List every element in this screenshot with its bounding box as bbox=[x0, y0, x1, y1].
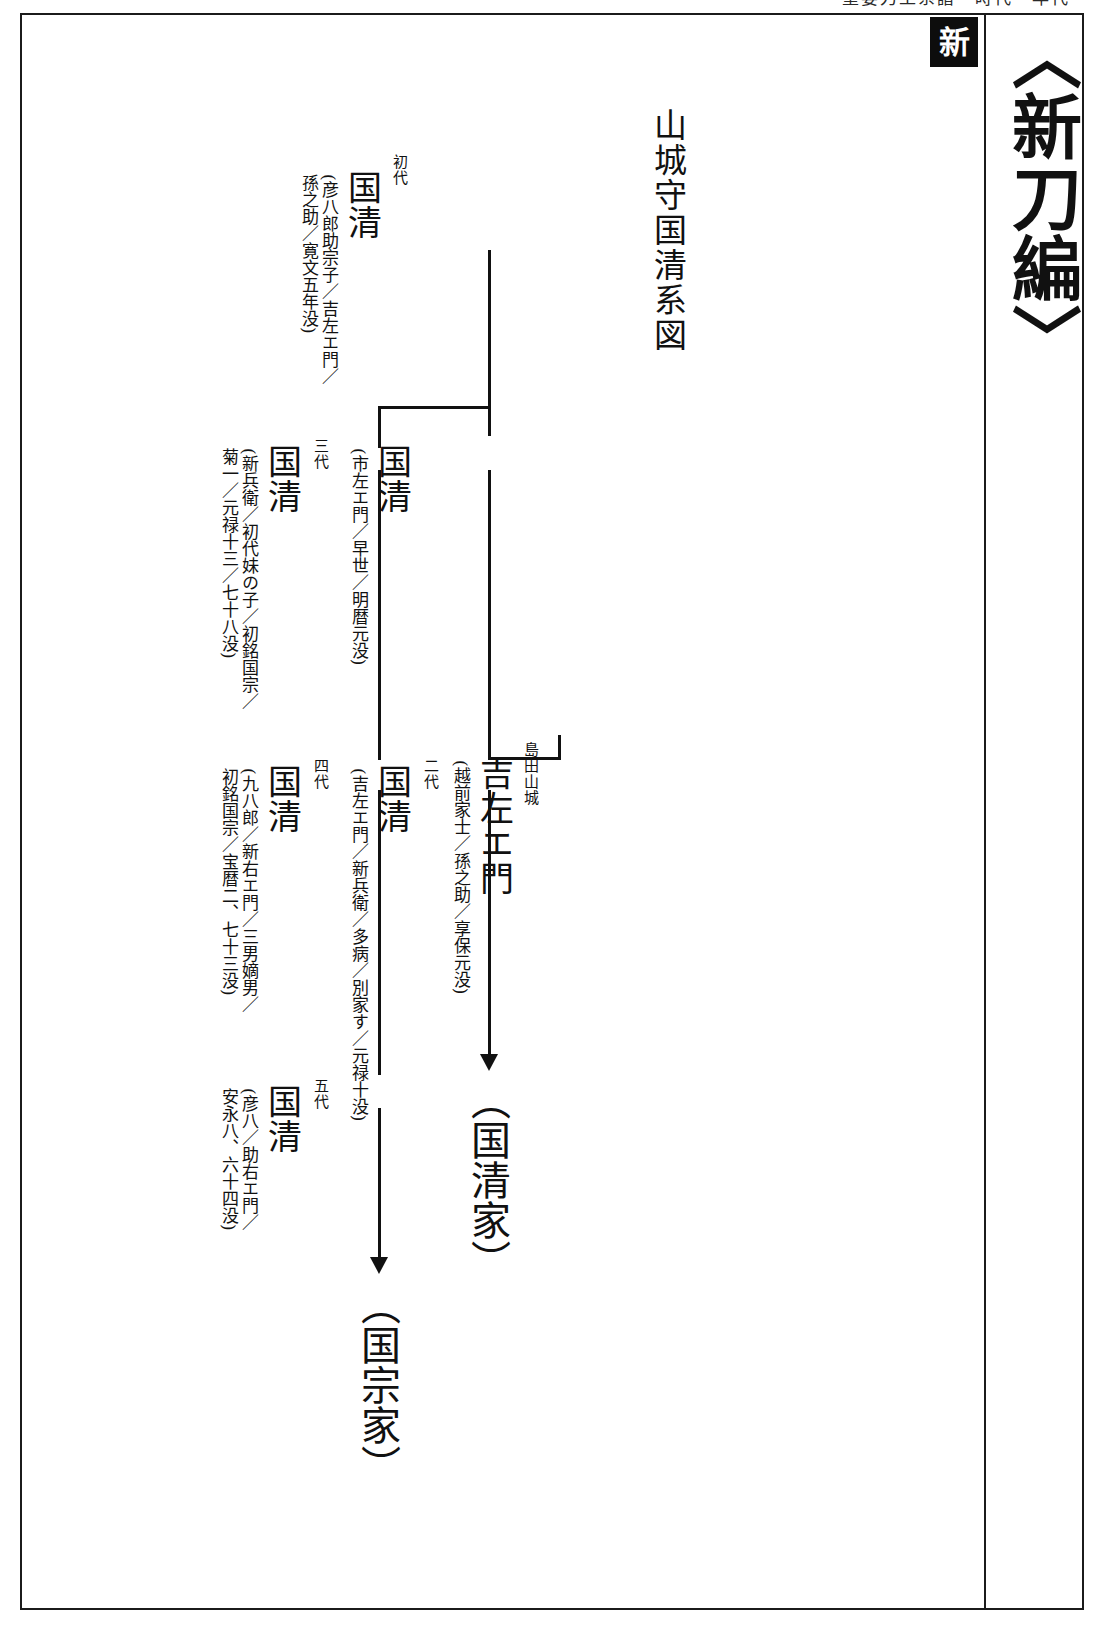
node-gen3-generation: 三代 bbox=[312, 438, 329, 470]
connector-gen1-branch bbox=[378, 406, 491, 409]
node-gen4-generation: 四代 bbox=[312, 758, 329, 790]
page-frame-divider bbox=[984, 13, 986, 1610]
connector-to-gen3 bbox=[378, 406, 381, 448]
node-gen1-note-2: 孫之助／寛文五年没) bbox=[299, 174, 318, 334]
node-gen5-note-2: 安永八、六十四没) bbox=[219, 1088, 238, 1231]
arrow-to-kunikiyo-house bbox=[480, 1054, 498, 1071]
node-gen1-generation: 初代 bbox=[391, 154, 408, 186]
node-gen3-note-1: (新兵衛／初代妹の子／初銘国宗／ bbox=[239, 448, 258, 710]
node-gen2-generation: 二代 bbox=[422, 758, 439, 790]
running-head: 重要刀工系譜 時代・年代 bbox=[770, 0, 1070, 6]
chart-title: 山城守国清系図 bbox=[648, 108, 687, 353]
node-gen2-name: 国清 bbox=[373, 764, 410, 834]
node-ichizaemon-name: 国清 bbox=[373, 444, 410, 514]
node-shimada-prefix: 島田山城 bbox=[522, 742, 539, 806]
node-shimada-note: (越前家士／孫之助／享保元没) bbox=[451, 760, 470, 994]
node-gen1-note-1: (彦八郎助宗子／吉左エ門／ bbox=[319, 174, 338, 385]
connector-shimada-drop bbox=[558, 735, 561, 760]
node-gen2-note: (吉左エ門／新兵衛／多病／別家す／元禄十没) bbox=[349, 768, 368, 1121]
node-gen4-note-1: (九八郎／新右エ門／三男嫡男／ bbox=[239, 768, 258, 1013]
node-gen3-name: 国清 bbox=[263, 444, 300, 514]
node-gen5-name: 国清 bbox=[263, 1084, 300, 1154]
terminal-kunimune-house: （国宗家） bbox=[356, 1285, 400, 1485]
node-ichizaemon-note: (市左エ門／早世／明暦元没) bbox=[349, 448, 368, 665]
terminal-kunikiyo-house: （国清家） bbox=[466, 1080, 510, 1280]
section-tab-shinto: 新 bbox=[930, 17, 978, 67]
node-gen4-note-2: 初銘国宗／宝暦二、七十三没) bbox=[219, 768, 238, 996]
page-frame bbox=[20, 13, 1084, 1610]
node-gen5-note-1: (彦八／助右エ門／ bbox=[239, 1088, 258, 1231]
node-gen4-name: 国清 bbox=[263, 764, 300, 834]
node-gen3-note-2: 菊一／元禄十三／七十八没) bbox=[219, 448, 238, 659]
book-title: 〈新刀編〉 bbox=[992, 20, 1076, 375]
node-shimada-name: 吉左エ門 bbox=[475, 756, 512, 896]
connector-ichizaemon-trunk bbox=[488, 470, 491, 760]
page-root: 重要刀工系譜 時代・年代 新 〈新刀編〉 山城守国清系図 初代 国清 (彦八郎助… bbox=[0, 0, 1103, 1631]
connector-gen5-trunk bbox=[378, 1108, 381, 1261]
node-gen1-name: 国清 bbox=[343, 170, 380, 240]
node-gen5-generation: 五代 bbox=[312, 1078, 329, 1110]
arrow-to-kunimune-house bbox=[370, 1257, 388, 1274]
